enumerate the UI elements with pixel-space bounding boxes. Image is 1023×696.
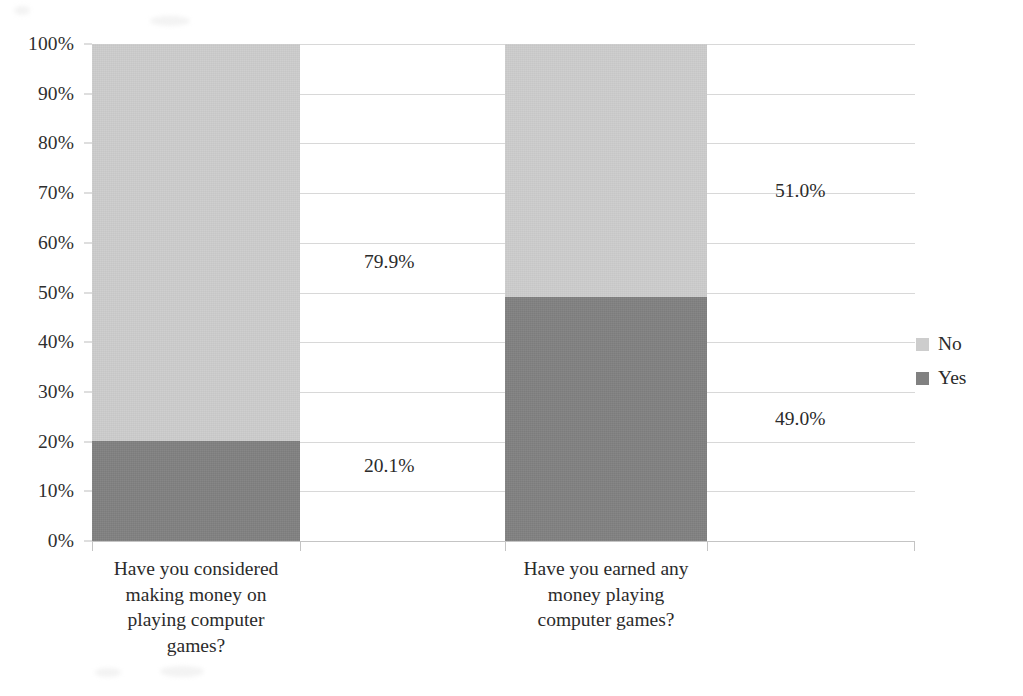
x-axis-tick xyxy=(707,541,708,551)
y-axis-tick-label: 90% xyxy=(38,83,74,105)
legend-label: No xyxy=(938,334,962,354)
legend-swatch-icon xyxy=(916,372,929,385)
bar-group[interactable] xyxy=(505,44,707,541)
legend-label: Yes xyxy=(938,368,966,388)
scan-artifact xyxy=(150,16,190,26)
y-axis-tick-mark xyxy=(84,491,92,492)
chart-legend: NoYes xyxy=(916,327,1023,395)
category-label-line: making money on xyxy=(46,582,346,608)
y-axis-tick-label: 100% xyxy=(28,33,74,55)
category-label-line: playing computer xyxy=(46,607,346,633)
y-axis-tick-mark xyxy=(84,391,92,392)
y-axis-tick-label: 20% xyxy=(38,431,74,453)
x-axis-tick xyxy=(300,541,301,551)
legend-swatch-icon xyxy=(916,338,929,351)
y-axis-tick-label: 30% xyxy=(38,381,74,403)
stacked-bar-chart: 100%90%80%70%60%50%40%30%20%10%0% 79.9%2… xyxy=(0,0,1023,696)
y-axis-tick-mark xyxy=(84,242,92,243)
y-axis-tick-mark xyxy=(84,44,92,45)
x-axis-line xyxy=(92,541,915,542)
y-axis-tick-label: 70% xyxy=(38,182,74,204)
y-axis-tick-label: 60% xyxy=(38,232,74,254)
legend-item-no[interactable]: No xyxy=(916,327,1023,361)
y-axis-tick-label: 0% xyxy=(48,530,74,552)
data-label-no: 79.9% xyxy=(364,251,414,273)
x-axis-category-label: Have you consideredmaking money onplayin… xyxy=(46,556,346,658)
bar-stack xyxy=(92,44,300,541)
y-axis-tick-mark xyxy=(84,342,92,343)
legend-item-yes[interactable]: Yes xyxy=(916,361,1023,395)
bar-group[interactable] xyxy=(92,44,300,541)
y-axis-tick-mark xyxy=(84,193,92,194)
category-label-line: money playing xyxy=(456,582,756,608)
x-axis-tick xyxy=(914,541,915,551)
category-label-line: Have you earned any xyxy=(456,556,756,582)
y-axis-tick-mark xyxy=(84,292,92,293)
y-axis-tick-label: 80% xyxy=(38,132,74,154)
y-axis-tick-label: 50% xyxy=(38,282,74,304)
y-axis-tick-mark xyxy=(84,143,92,144)
category-label-line: computer games? xyxy=(456,607,756,633)
bar-segment-yes[interactable] xyxy=(92,441,300,541)
category-label-line: games? xyxy=(46,633,346,659)
category-label-line: Have you considered xyxy=(46,556,346,582)
bar-stack xyxy=(505,44,707,541)
scan-artifact xyxy=(160,666,204,677)
scan-artifact xyxy=(14,6,30,15)
x-axis-tick xyxy=(505,541,506,551)
data-label-no: 51.0% xyxy=(775,180,825,202)
y-axis-tick-label: 10% xyxy=(38,480,74,502)
y-axis: 100%90%80%70%60%50%40%30%20%10%0% xyxy=(0,44,84,541)
x-axis-category-label: Have you earned anymoney playingcomputer… xyxy=(456,556,756,633)
scan-artifact xyxy=(95,668,121,677)
bar-segment-no[interactable] xyxy=(505,44,707,297)
plot-area: 79.9%20.1%51.0%49.0% xyxy=(92,44,915,541)
data-label-yes: 20.1% xyxy=(364,455,414,477)
bar-segment-no[interactable] xyxy=(92,44,300,441)
y-axis-tick-mark xyxy=(84,541,92,542)
bar-segment-yes[interactable] xyxy=(505,297,707,541)
y-axis-tick-label: 40% xyxy=(38,331,74,353)
data-label-yes: 49.0% xyxy=(775,408,825,430)
y-axis-tick-mark xyxy=(84,93,92,94)
y-axis-tick-mark xyxy=(84,441,92,442)
x-axis-tick xyxy=(92,541,93,551)
